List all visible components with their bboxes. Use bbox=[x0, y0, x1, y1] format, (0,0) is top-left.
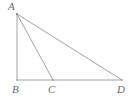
vertex-label-c: C bbox=[48, 84, 55, 95]
vertex-label-d: D bbox=[117, 84, 125, 95]
vertex-point-b bbox=[16, 79, 17, 80]
vertex-label-b: B bbox=[12, 84, 19, 95]
segment-ac bbox=[17, 14, 53, 80]
segments-group bbox=[17, 14, 122, 80]
figure-canvas bbox=[0, 0, 134, 101]
vertex-point-d bbox=[121, 79, 122, 80]
vertex-point-a bbox=[16, 13, 18, 15]
geometry-figure: ABCD bbox=[0, 0, 134, 101]
segment-ad bbox=[17, 14, 122, 80]
vertex-point-c bbox=[52, 79, 53, 80]
vertex-label-a: A bbox=[8, 1, 15, 12]
